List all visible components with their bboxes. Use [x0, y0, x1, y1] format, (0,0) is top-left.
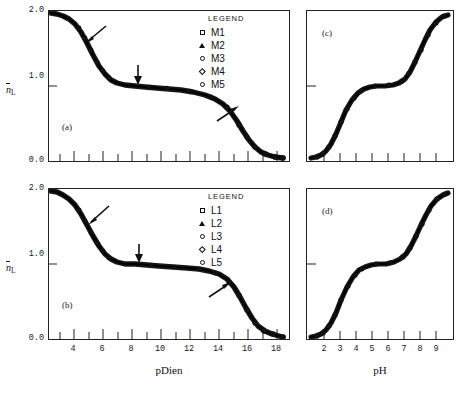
xtick-ph-6: 6: [385, 344, 390, 354]
panel-a-ytick-2: 2.0: [14, 5, 44, 15]
square-marker-icon: [196, 208, 208, 213]
circle-marker-icon: [196, 56, 208, 61]
panel-a: [48, 10, 290, 162]
xtick-pdien-16: 16: [242, 344, 252, 354]
triangle-marker-icon: [196, 221, 208, 226]
xtick-pdien-10: 10: [155, 344, 165, 354]
figure-container: (a) LEGEND M1 M2 M3 M4 M5: [0, 0, 460, 393]
legend-a-item-m3: M3: [196, 52, 244, 65]
legend-a-item-m1: M1: [196, 26, 244, 39]
legend-b-label-l1: L1: [211, 205, 222, 216]
diamond-marker-icon: [196, 247, 208, 252]
panel-a-yaxis-title: nL: [6, 84, 16, 97]
panel-b-ytick-0: 0.0: [14, 333, 44, 343]
n-bar-symbol: n: [6, 84, 11, 95]
panel-b-annotation-arrow-2: [135, 244, 143, 263]
panel-a-ytick-1: 1.0: [14, 71, 44, 81]
legend-a-label-m5: M5: [211, 79, 225, 90]
panel-a-plot: [49, 11, 289, 161]
legend-a-item-m2: M2: [196, 39, 244, 52]
xtick-ph-8: 8: [417, 344, 422, 354]
legend-b-label-l3: L3: [211, 231, 222, 242]
y-subscript-l: L: [11, 266, 16, 275]
xaxis-title-pdien: pDien: [156, 364, 183, 376]
xtick-pdien-14: 14: [213, 344, 223, 354]
legend-b-label-l5: L5: [211, 257, 222, 268]
n-bar-symbol: n: [6, 262, 11, 273]
panel-b-ytick-1: 1.0: [14, 249, 44, 259]
circle-marker-icon: [196, 260, 208, 265]
xtick-pdien-4: 4: [70, 344, 75, 354]
panel-b-plot: [49, 189, 289, 339]
panel-c-label: (c): [322, 28, 332, 38]
diamond-marker-icon: [196, 69, 208, 74]
legend-b-item-l2: L2: [196, 217, 244, 230]
legend-b-label-l4: L4: [211, 244, 222, 255]
panel-a-markers: [77, 26, 286, 161]
panel-b-data-band: [51, 191, 283, 337]
panel-b-yaxis-title: nL: [6, 262, 16, 275]
triangle-marker-icon: [196, 43, 208, 48]
legend-a-label-m3: M3: [211, 53, 225, 64]
y-subscript-l: L: [11, 88, 16, 97]
legend-b-item-l1: L1: [196, 204, 244, 217]
legend-a-label-m4: M4: [211, 66, 225, 77]
legend-a-label-m2: M2: [211, 40, 225, 51]
square-marker-icon: [196, 30, 208, 35]
xtick-ph-3: 3: [337, 344, 342, 354]
xtick-ph-2: 2: [321, 344, 326, 354]
legend-a-item-m4: M4: [196, 65, 244, 78]
legend-b-title: LEGEND: [208, 192, 244, 201]
panel-b-annotation-arrow-1: [88, 206, 109, 225]
legend-b-item-l4: L4: [196, 243, 244, 256]
xtick-ph-5: 5: [369, 344, 374, 354]
xaxis-title-ph: pH: [373, 364, 386, 376]
legend-panel-b: LEGEND L1 L2 L3 L4 L5: [196, 192, 244, 269]
panel-a-xticks: [60, 151, 277, 161]
xtick-ph-9: 9: [433, 344, 438, 354]
panel-c-xticks: [324, 153, 436, 161]
circle-marker-icon: [196, 234, 208, 239]
panel-a-annotation-arrow-2: [134, 65, 142, 85]
xtick-pdien-18: 18: [271, 344, 281, 354]
legend-a-item-m5: M5: [196, 78, 244, 91]
panel-b-label: (b): [62, 300, 73, 310]
xtick-pdien-12: 12: [184, 344, 194, 354]
circle-marker-icon: [196, 82, 208, 87]
legend-b-item-l3: L3: [196, 230, 244, 243]
panel-a-label: (a): [62, 122, 72, 132]
panel-d-label: (d): [322, 206, 333, 216]
panel-b-ytick-2: 2.0: [14, 183, 44, 193]
legend-a-title: LEGEND: [208, 14, 244, 23]
xtick-pdien-6: 6: [99, 344, 104, 354]
legend-panel-a: LEGEND M1 M2 M3 M4 M5: [196, 14, 244, 91]
xtick-pdien-8: 8: [128, 344, 133, 354]
legend-b-label-l2: L2: [211, 218, 222, 229]
legend-a-label-m1: M1: [211, 27, 225, 38]
legend-b-item-l5: L5: [196, 256, 244, 269]
panel-d-xticks: [324, 331, 436, 339]
xtick-ph-4: 4: [353, 344, 358, 354]
panel-a-ytick-0: 0.0: [14, 155, 44, 165]
panel-b-annotation-arrow-3: [209, 282, 231, 297]
panel-b-xticks: [60, 329, 277, 339]
panel-a-annotation-arrow-1: [85, 26, 106, 44]
panel-b: [48, 188, 290, 340]
xtick-ph-7: 7: [401, 344, 406, 354]
